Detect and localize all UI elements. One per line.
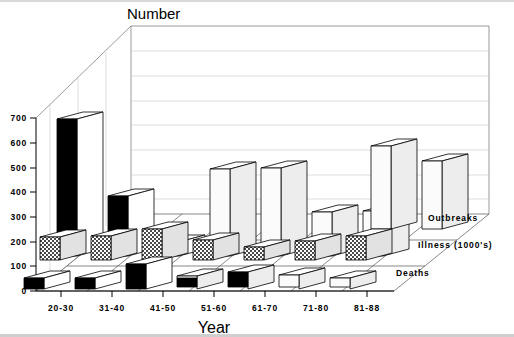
x-tick-label-3: 51-60 <box>201 303 227 313</box>
x-tick-label-4: 61-70 <box>252 303 278 313</box>
y-axis: 700 600 500 400 300 200 100 0 <box>10 113 36 296</box>
bar-chart-3d: 700 600 500 400 300 200 100 0 <box>0 0 514 337</box>
x-axis: 20-30 31-40 41-50 51-60 61-70 71-80 81-8… <box>36 291 394 313</box>
series-label-illness: Illness (1000's) <box>418 240 493 250</box>
x-tick-label-1: 31-40 <box>99 303 125 313</box>
x-tick-label-2: 41-50 <box>150 303 176 313</box>
x-tick-label-0: 20-30 <box>48 303 74 313</box>
y-tick-label-100: 100 <box>10 261 27 271</box>
y-tick-label-500: 500 <box>10 163 27 173</box>
series-label-outbreaks: Outbreaks <box>428 213 478 223</box>
y-tick-label-300: 300 <box>10 212 27 222</box>
y-tick-label-700: 700 <box>10 113 27 123</box>
bar-deaths-41-50 <box>126 257 172 289</box>
chart-container: 700 600 500 400 300 200 100 0 <box>0 0 514 337</box>
bar-illness-41-50 <box>142 222 188 260</box>
bar-outbreaks-tall-71-80 <box>371 139 417 229</box>
y-tick-label-200: 200 <box>10 237 27 247</box>
x-tick-label-6: 81-88 <box>354 303 380 313</box>
y-axis-title: Number <box>127 5 180 22</box>
x-tick-label-5: 71-80 <box>303 303 329 313</box>
scan-artifact-top <box>0 0 514 2</box>
y-tick-label-600: 600 <box>10 138 27 148</box>
series-label-deaths: Deaths <box>396 268 430 278</box>
x-axis-title: Year <box>198 319 231 336</box>
y-tick-label-400: 400 <box>10 187 27 197</box>
